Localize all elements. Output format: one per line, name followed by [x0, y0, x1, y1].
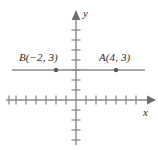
y-axis-label: y: [83, 8, 88, 19]
x-axis-arrow-icon: [147, 96, 156, 105]
x-axis-label: x: [143, 107, 148, 118]
point-label-a: A(4, 3): [99, 51, 130, 63]
coordinate-plane-figure: B(−2, 3) A(4, 3) y x: [0, 0, 158, 150]
point-marker-a: [114, 68, 118, 72]
y-axis-arrow-icon: [72, 10, 81, 20]
coordinate-plane-svg: [0, 0, 158, 150]
point-label-b: B(−2, 3): [19, 51, 58, 63]
point-marker-b: [54, 68, 58, 72]
